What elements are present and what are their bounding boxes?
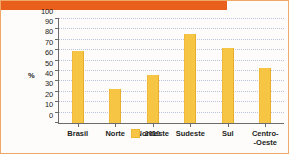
bar-group: Centro--Oeste <box>247 19 284 123</box>
x-tick-mark <box>115 123 116 127</box>
bar <box>222 48 234 123</box>
bar <box>109 89 121 123</box>
x-tick-mark <box>190 123 191 127</box>
bar-group: Brasil <box>59 19 96 123</box>
legend-swatch-2010 <box>131 129 140 138</box>
bar <box>259 68 271 123</box>
bar-group: Sudeste <box>172 19 209 123</box>
y-tick-label: 90 <box>45 18 53 26</box>
bar-group: Nordeste <box>134 19 171 123</box>
x-tick-label-line: -Oeste <box>252 138 279 147</box>
chart-axes: 0102030405060708090100 BrasilNorteNordes… <box>58 19 284 124</box>
y-tick-label: 0 <box>49 112 53 120</box>
chart-legend: 2010 <box>1 129 289 138</box>
y-tick-label: 80 <box>45 29 53 37</box>
x-tick-mark <box>78 123 79 127</box>
x-tick-mark <box>228 123 229 127</box>
y-tick-label: 10 <box>45 101 53 109</box>
bar-group: Norte <box>96 19 133 123</box>
legend-label-2010: 2010 <box>145 130 160 137</box>
y-tick-label: 60 <box>45 49 53 57</box>
y-tick-label: 50 <box>45 60 53 68</box>
chart-figure: % 0102030405060708090100 BrasilNorteNord… <box>0 0 289 154</box>
bar <box>147 75 159 123</box>
bar <box>72 51 84 123</box>
y-tick-label: 100 <box>41 8 53 16</box>
y-axis-label: % <box>28 71 35 80</box>
y-tick-label: 40 <box>45 70 53 78</box>
y-tick-label: 30 <box>45 81 53 89</box>
bar-group: Sul <box>209 19 246 123</box>
orange-header-band <box>1 1 227 10</box>
y-tick-label: 20 <box>45 91 53 99</box>
bar <box>184 34 196 123</box>
x-tick-mark <box>153 123 154 127</box>
x-tick-mark <box>265 123 266 127</box>
y-tick-label: 70 <box>45 39 53 47</box>
